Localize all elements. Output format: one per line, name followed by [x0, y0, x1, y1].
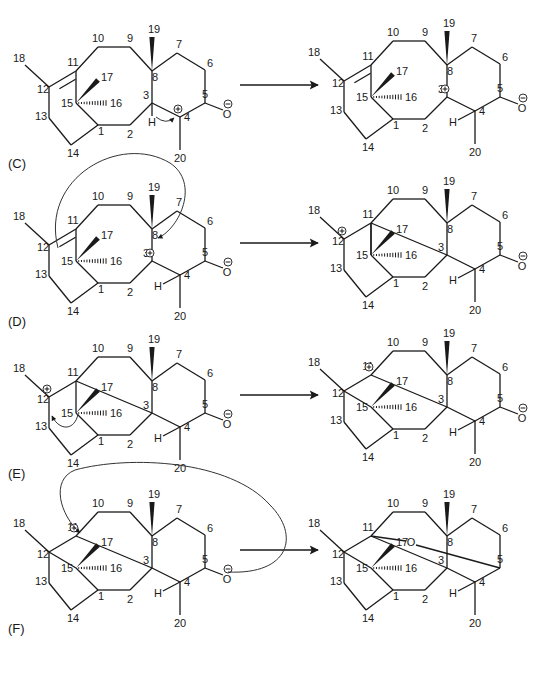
bond-2-3 — [425, 407, 447, 429]
atom-label-12: 12 — [332, 77, 344, 89]
bond-4-3 — [447, 568, 475, 582]
atom-label-19: 19 — [443, 17, 455, 29]
wedge-bond — [371, 72, 395, 97]
bond-8-9 — [130, 205, 152, 229]
bond-13-14 — [49, 276, 71, 303]
atom-label-17: 17 — [396, 65, 408, 77]
bond-7-6 — [177, 363, 205, 380]
hydrogen-label: H — [154, 280, 162, 292]
bond-4-3 — [152, 568, 180, 582]
atom-label-13: 13 — [35, 575, 47, 587]
wedge-bond — [149, 195, 154, 229]
bond-8-7 — [447, 357, 472, 375]
atom-label-6: 6 — [502, 361, 508, 373]
atom-label-5: 5 — [497, 240, 503, 252]
atom-label-14: 14 — [362, 612, 374, 624]
bond-11-12 — [49, 71, 76, 87]
atom-label-20: 20 — [174, 462, 186, 474]
bond-4-3 — [447, 255, 475, 269]
atom-label-5: 5 — [202, 398, 208, 410]
atom-label-5: 5 — [497, 553, 503, 565]
bond-5-O — [205, 413, 223, 420]
atom-label-19: 19 — [443, 327, 455, 339]
atom-label-16: 16 — [405, 91, 417, 103]
atom-label-16: 16 — [110, 255, 122, 267]
panel-label-F: (F) — [8, 621, 25, 636]
atom-label-1: 1 — [393, 277, 399, 289]
atom-label-19: 19 — [148, 333, 160, 345]
positive-charge-icon — [365, 363, 373, 371]
atom-label-1: 1 — [393, 429, 399, 441]
atom-label-15: 15 — [356, 249, 368, 261]
atom-label-1: 1 — [98, 590, 104, 602]
atom-label-8: 8 — [152, 71, 158, 83]
atom-label-18: 18 — [308, 46, 320, 58]
atom-label-18: 18 — [13, 362, 25, 374]
oxygen-label: O — [223, 573, 232, 585]
hydrogen-label: H — [449, 116, 457, 128]
bond-13-14 — [344, 112, 366, 139]
atom-label-10: 10 — [387, 184, 399, 196]
atom-label-3: 3 — [143, 399, 149, 411]
atom-label-10: 10 — [92, 342, 104, 354]
atom-label-15: 15 — [61, 562, 73, 574]
atom-label-13: 13 — [35, 110, 47, 122]
bond-13-14 — [344, 270, 366, 297]
atom-label-4: 4 — [184, 576, 190, 588]
bond-H — [163, 275, 180, 284]
atom-label-20: 20 — [469, 304, 481, 316]
atom-label-11: 11 — [67, 214, 78, 226]
atom-label-10: 10 — [387, 497, 399, 509]
atom-label-14: 14 — [67, 457, 79, 469]
atom-label-20: 20 — [174, 617, 186, 629]
atom-label-6: 6 — [207, 215, 213, 227]
double-bond-inner — [59, 237, 75, 247]
bond-5-O — [500, 97, 518, 104]
bond-2-3 — [425, 568, 447, 590]
atom-label-5: 5 — [497, 392, 503, 404]
atom-label-18: 18 — [308, 204, 320, 216]
bond-14-1 — [366, 429, 393, 449]
bond-2-3 — [130, 568, 152, 590]
bond-8-7 — [447, 205, 472, 223]
bond-14-1 — [71, 435, 98, 455]
bond-5-O — [205, 568, 223, 575]
bond-7-6 — [177, 518, 205, 535]
bond-8-9 — [425, 41, 447, 65]
panel-label-E: (E) — [8, 466, 25, 481]
atom-label-11: 11 — [362, 521, 373, 533]
atom-label-9: 9 — [127, 32, 133, 44]
bond-13-14 — [49, 428, 71, 455]
atom-label-20: 20 — [174, 310, 186, 322]
reactant-E: OH1234567891011121314151617181920 — [13, 333, 232, 474]
wedge-bond — [444, 31, 449, 65]
negative-charge-icon — [519, 404, 527, 412]
bond-H — [458, 421, 475, 430]
atom-label-11: 11 — [362, 50, 373, 62]
oxygen-label: O — [223, 418, 232, 430]
bond-7-6 — [177, 211, 205, 228]
atom-label-16: 16 — [405, 401, 417, 413]
atom-label-1: 1 — [98, 125, 104, 137]
bond-13-14 — [49, 118, 71, 145]
bond-4-3 — [447, 97, 475, 111]
atom-label-6: 6 — [502, 522, 508, 534]
bond-7-6 — [472, 47, 500, 64]
bond-8-7 — [152, 53, 177, 71]
atom-label-16: 16 — [110, 97, 122, 109]
bond-10-11 — [76, 357, 98, 381]
atom-label-14: 14 — [67, 147, 79, 159]
product-C: OH1234567891011121314151617181920 — [308, 17, 527, 158]
reactant-F: OH1234567891011121314151617181920 — [13, 488, 232, 629]
bond-H — [458, 582, 475, 591]
bond-10-11 — [76, 205, 98, 229]
atom-label-13: 13 — [35, 420, 47, 432]
atom-label-14: 14 — [67, 305, 79, 317]
wedge-bond — [444, 189, 449, 223]
atom-label-17: 17 — [396, 536, 408, 548]
bond-8-9 — [425, 512, 447, 536]
atom-label-2: 2 — [422, 122, 428, 134]
negative-charge-icon — [519, 252, 527, 260]
atom-label-7: 7 — [176, 348, 182, 360]
bond-8-9 — [130, 357, 152, 381]
